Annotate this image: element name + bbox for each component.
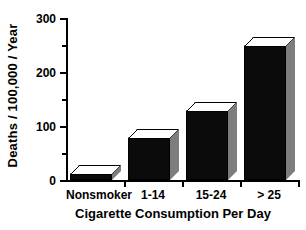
x-tick-4 (298, 182, 300, 187)
y-tick-label-200-holder: 200 (22, 67, 56, 79)
x-tick-label-1-14: 1-14 (124, 188, 182, 202)
bar-front-face (128, 138, 170, 180)
y-tick-label-300-holder: 300 (22, 13, 56, 25)
y-tick-label-100: 100 (22, 121, 56, 133)
y-tick-100 (60, 126, 66, 128)
y-tick-300 (60, 18, 66, 20)
x-tick-2 (182, 182, 184, 187)
bar-front-face (186, 111, 228, 180)
y-axis-line (66, 18, 68, 182)
y-minor-tick-150 (62, 99, 66, 101)
x-tick-label-gt-25: > 25 (240, 188, 298, 202)
bar-15-24 (186, 102, 237, 180)
bar-side-face (286, 37, 295, 180)
x-tick-1 (124, 182, 126, 187)
bar-1-14 (128, 129, 179, 180)
bar-front-face (70, 174, 112, 180)
y-tick-label-200: 200 (22, 67, 56, 79)
x-tick-label-15-24: 15-24 (182, 188, 240, 202)
y-tick-label-0: 0 (22, 175, 56, 187)
y-tick-200 (60, 72, 66, 74)
y-tick-label-100-holder: 100 (22, 121, 56, 133)
bar-side-face (170, 129, 179, 180)
bar-front-face (244, 46, 286, 180)
x-axis-title: Cigarette Consumption Per Day (40, 206, 306, 221)
plot-area: 0 100 200 300 Nonsmoker 1-14 15-24 > 25 (0, 0, 306, 230)
x-tick-label-nonsmoker: Nonsmoker (66, 188, 124, 202)
bar-side-face (228, 102, 237, 180)
bar-chart: Deaths / 100,000 / Year 0 100 200 300 (0, 0, 306, 230)
y-tick-0 (60, 180, 66, 182)
y-tick-label-0-holder: 0 (22, 175, 56, 187)
bar-25 (244, 37, 295, 180)
y-minor-tick-250 (62, 45, 66, 47)
x-tick-3 (240, 182, 242, 187)
bar-nonsmoker (70, 165, 121, 180)
y-minor-tick-50 (62, 153, 66, 155)
y-tick-label-300: 300 (22, 13, 56, 25)
